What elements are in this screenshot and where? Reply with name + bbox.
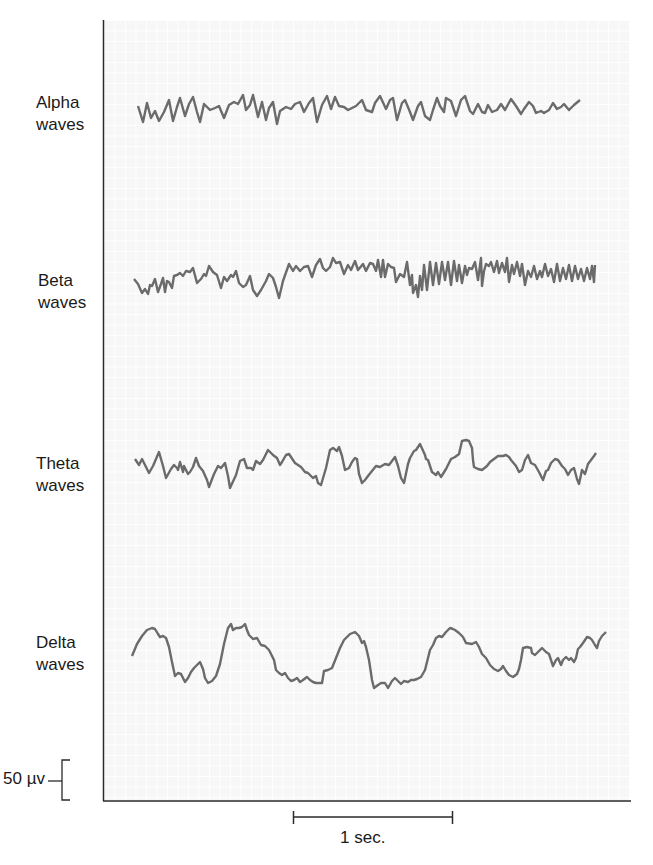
voltage-scale-label: 50 µv bbox=[3, 769, 45, 789]
time-scale-label: 1 sec. bbox=[340, 828, 385, 848]
waveform-canvas bbox=[0, 0, 653, 865]
beta-wave-trace bbox=[134, 258, 595, 298]
delta-wave-trace bbox=[132, 624, 606, 688]
theta-wave-trace bbox=[135, 440, 596, 488]
voltage-scale-bracket bbox=[62, 760, 70, 800]
alpha-wave-trace bbox=[138, 95, 580, 124]
